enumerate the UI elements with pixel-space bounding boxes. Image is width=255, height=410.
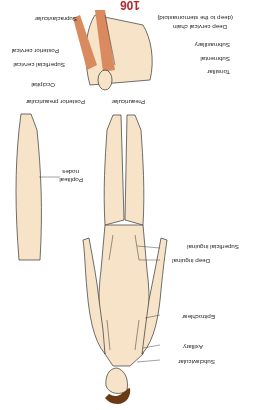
- label-occipital: Occipital: [31, 82, 55, 88]
- document-page: Subclavicular Axillary Epitrochlear Deep…: [0, 0, 255, 410]
- label-axillary: Axillary: [183, 344, 203, 350]
- label-deep-to-sternomastoid: (deep to the sternomastoid): [157, 15, 233, 21]
- label-popliteal-nodes: nodes: [62, 169, 79, 175]
- label-deep-cervical-chain: Deep cervical chain: [173, 24, 227, 30]
- label-epitrochlear: Epitrochlear: [182, 314, 215, 320]
- label-subclavicular: Subclavicular: [178, 359, 215, 365]
- label-deep-inguinal: Deep inguinal: [172, 258, 210, 264]
- leg-left: [125, 115, 144, 225]
- head-neck-detail: [73, 10, 152, 90]
- label-tonsillar: Tonsillar: [207, 69, 230, 75]
- label-preauricular: Preauricular: [112, 99, 145, 105]
- page-number: 106: [120, 0, 140, 12]
- label-submaxillary: Submaxillary: [195, 42, 230, 48]
- face-outline: [86, 15, 152, 85]
- ear: [98, 70, 112, 90]
- label-supraclavicular: Supraclavicular: [35, 16, 77, 22]
- label-superficial-cervical: Superficial cervical: [13, 62, 65, 68]
- label-submental: Submental: [200, 56, 230, 62]
- label-posterior-cervical: Posterior cervical: [12, 48, 59, 54]
- side-leg-figure: [16, 114, 41, 260]
- head: [106, 368, 128, 393]
- label-popliteal: Popliteal: [59, 177, 83, 183]
- label-superficial-inguinal: Superficial inguinal: [187, 244, 239, 250]
- leg-right: [104, 115, 124, 225]
- label-posterior-preauricular: Posterior preauricular: [26, 99, 85, 105]
